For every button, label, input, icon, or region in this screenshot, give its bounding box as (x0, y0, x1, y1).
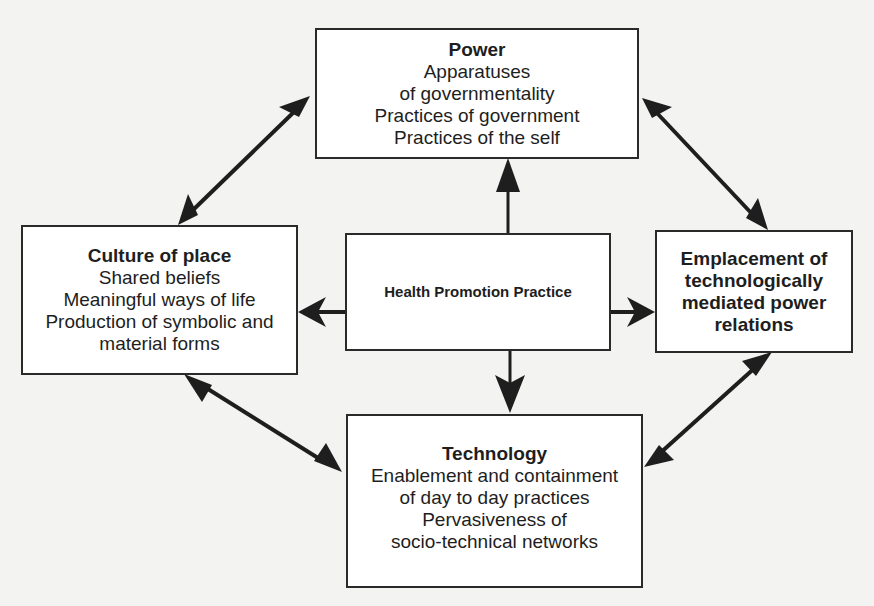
node-power-line: Practices of government (375, 105, 580, 127)
node-emplacement-title-line: relations (714, 314, 793, 336)
node-culture-of-place: Culture of place Shared beliefs Meaningf… (21, 225, 298, 375)
node-culture-title: Culture of place (88, 245, 232, 267)
node-emplacement-title-line: technologically (685, 270, 823, 292)
node-power-title: Power (448, 39, 505, 61)
node-technology-line: Pervasiveness of (422, 509, 567, 531)
node-power-line: Practices of the self (394, 127, 560, 149)
node-power: Power Apparatuses of governmentality Pra… (315, 28, 639, 159)
arrow-center-culture (298, 297, 345, 327)
node-culture-line: Shared beliefs (99, 267, 220, 289)
node-culture-line: Meaningful ways of life (63, 289, 255, 311)
arrow-culture-power (178, 96, 310, 225)
node-culture-line: Production of symbolic and (45, 311, 273, 333)
arrow-center-power (496, 158, 520, 233)
arrow-center-technology (495, 350, 525, 413)
node-technology-line: socio-technical networks (391, 531, 598, 553)
node-technology: Technology Enablement and containment of… (346, 414, 643, 588)
node-emplacement: Emplacement of technologically mediated … (655, 230, 853, 353)
node-power-line: Apparatuses (424, 61, 531, 83)
node-health-promotion-practice: Health Promotion Practice (345, 233, 611, 351)
node-technology-line: Enablement and containment (371, 465, 618, 487)
diagram-canvas: Power Apparatuses of governmentality Pra… (0, 0, 874, 606)
node-technology-title: Technology (442, 443, 547, 465)
node-power-line: of governmentality (399, 83, 554, 105)
node-culture-line: material forms (99, 333, 219, 355)
node-technology-line: of day to day practices (399, 487, 589, 509)
node-center-title: Health Promotion Practice (384, 281, 572, 303)
node-emplacement-title-line: mediated power (682, 292, 827, 314)
node-emplacement-title-line: Emplacement of (681, 248, 828, 270)
arrow-culture-technology (184, 374, 342, 472)
arrow-power-emplacement (642, 98, 768, 230)
arrow-center-emplacement (611, 297, 655, 327)
arrow-emplacement-technology (644, 352, 772, 467)
